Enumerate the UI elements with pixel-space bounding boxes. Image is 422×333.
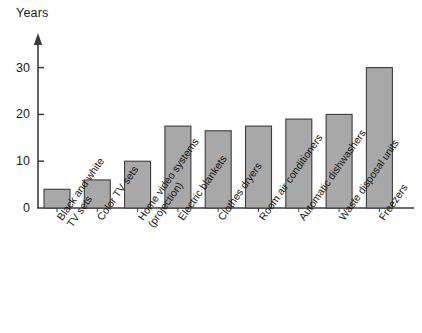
plot-area bbox=[0, 0, 422, 333]
y-tick-label: 20 bbox=[4, 107, 30, 121]
bar[interactable] bbox=[205, 131, 231, 208]
bar-chart: Years 0102030 Black and white TV setsCol… bbox=[0, 0, 422, 333]
y-axis-arrow-icon bbox=[34, 33, 42, 45]
y-tick-label: 10 bbox=[4, 154, 30, 168]
bars-group bbox=[44, 68, 392, 208]
bar[interactable] bbox=[84, 180, 110, 208]
bar[interactable] bbox=[246, 126, 272, 208]
bar[interactable] bbox=[165, 126, 191, 208]
bar[interactable] bbox=[125, 161, 151, 208]
y-tick-label: 0 bbox=[4, 201, 30, 215]
bar[interactable] bbox=[366, 68, 392, 208]
chart-canvas bbox=[0, 0, 422, 333]
y-tick-label: 30 bbox=[4, 61, 30, 75]
bar[interactable] bbox=[44, 189, 70, 208]
bar[interactable] bbox=[326, 114, 352, 208]
bar[interactable] bbox=[286, 119, 312, 208]
